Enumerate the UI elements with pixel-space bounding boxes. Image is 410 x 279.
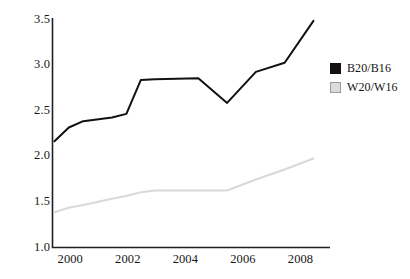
y-axis-tick-labels: 1.01.52.02.53.03.5 xyxy=(12,0,50,279)
y-tick-label: 3.0 xyxy=(16,58,50,71)
y-tick-label: 3.5 xyxy=(16,13,50,26)
legend-label: B20/B16 xyxy=(347,62,391,74)
data-series-group xyxy=(54,21,313,213)
x-tick-label: 2000 xyxy=(48,253,92,266)
line-chart: 1.01.52.02.53.03.5 20002002200420062008 … xyxy=(0,0,410,279)
legend-swatch-icon xyxy=(330,82,341,93)
x-tick-label: 2002 xyxy=(106,253,150,266)
y-tick-label: 1.5 xyxy=(16,195,50,208)
x-tick-label: 2008 xyxy=(278,253,322,266)
legend-item[interactable]: B20/B16 xyxy=(330,60,408,76)
series-line-b20-b16 xyxy=(54,21,313,141)
y-tick-label: 2.0 xyxy=(16,149,50,162)
plot-area xyxy=(0,0,410,279)
legend-swatch-icon xyxy=(330,63,341,74)
x-tick-label: 2004 xyxy=(163,253,207,266)
axis-lines xyxy=(52,18,330,248)
chart-legend: B20/B16W20/W16 xyxy=(330,60,408,98)
y-tick-label: 2.5 xyxy=(16,104,50,117)
x-tick-label: 2006 xyxy=(221,253,265,266)
x-axis-tick-labels: 20002002200420062008 xyxy=(0,253,410,273)
legend-item[interactable]: W20/W16 xyxy=(330,79,408,95)
y-tick-label: 1.0 xyxy=(16,241,50,254)
legend-label: W20/W16 xyxy=(347,81,398,93)
series-line-w20-w16 xyxy=(54,159,313,213)
